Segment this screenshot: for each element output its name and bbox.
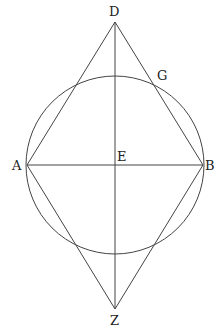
label-Z: Z: [110, 313, 119, 328]
label-D: D: [109, 4, 119, 19]
segment-ZB: [115, 165, 203, 309]
label-G: G: [157, 68, 167, 83]
label-A: A: [11, 158, 22, 173]
label-E: E: [117, 149, 127, 164]
segment-ZA: [27, 165, 115, 309]
diagram-canvas: D G A E B Z: [0, 0, 224, 329]
segment-DB: [115, 22, 203, 165]
geometry-diagram: D G A E B Z: [0, 0, 224, 329]
label-B: B: [205, 158, 215, 173]
segment-DA: [27, 22, 115, 165]
